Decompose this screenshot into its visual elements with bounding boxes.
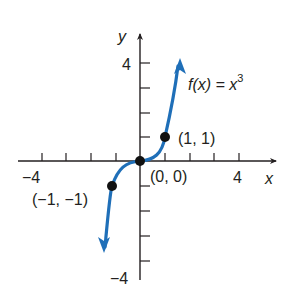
point-1-1 xyxy=(160,132,170,142)
cubic-function-graph: y x 4 −4 −4 4 (1, 1) (0, 0) (−1, −1) f(x… xyxy=(0,0,296,297)
y-axis-label: y xyxy=(117,28,127,45)
y-tick-label-neg4: −4 xyxy=(110,270,128,287)
x-tick-label-4: 4 xyxy=(233,169,242,186)
function-label-text: f(x) = x xyxy=(188,76,238,93)
point-label-origin: (0, 0) xyxy=(150,168,187,185)
y-tick-label-4: 4 xyxy=(122,56,131,73)
x-tick-label-neg4: −4 xyxy=(22,169,40,186)
point-label-1-1: (1, 1) xyxy=(178,130,215,147)
point-origin xyxy=(135,156,145,166)
curve-arrow-up-icon xyxy=(174,58,186,74)
curve-arrow-down-icon xyxy=(98,237,110,253)
x-axis-label: x xyxy=(264,170,274,187)
point-neg1-neg1 xyxy=(107,181,117,191)
point-label-neg1-neg1: (−1, −1) xyxy=(32,191,88,208)
function-label: f(x) = x3 xyxy=(188,72,243,93)
function-exponent: 3 xyxy=(237,72,243,84)
